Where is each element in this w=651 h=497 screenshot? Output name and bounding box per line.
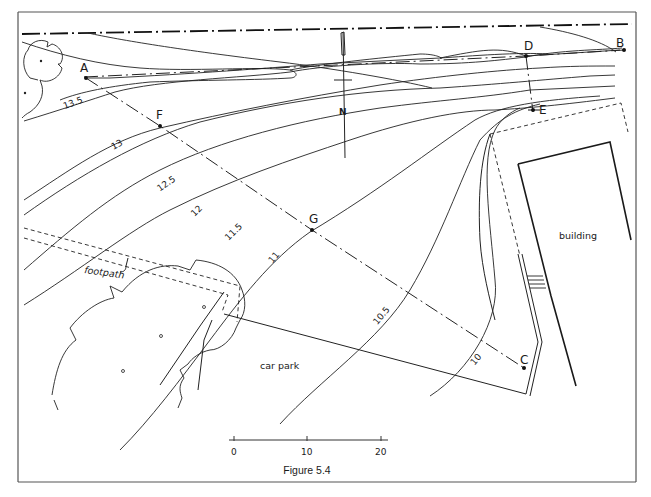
tree-canopy-top-left <box>22 40 62 118</box>
point-label-b: B <box>616 36 624 50</box>
point-label-f: F <box>156 108 163 122</box>
contour-label: 10 <box>468 352 483 367</box>
car-park-edge <box>224 314 526 394</box>
point-labels: A B C D E F G <box>80 36 624 367</box>
point-label-a: A <box>80 61 89 75</box>
steps <box>518 254 546 396</box>
site-plan-figure: 13.5 13 12.5 12 11.5 11 10.5 10 N A <box>0 0 651 497</box>
contour-label: 10.5 <box>371 305 392 327</box>
footpath-label: footpath <box>84 264 125 281</box>
car-park-label: car park <box>260 360 300 371</box>
tree-canopy-car-park <box>52 260 245 410</box>
point-label-g: G <box>309 212 318 226</box>
scale-tick-label: 0 <box>231 447 237 457</box>
contour-labels: 13.5 13 12.5 12 11.5 11 10.5 10 <box>62 95 484 367</box>
point-label-e: E <box>539 103 547 117</box>
survey-points <box>84 48 626 370</box>
building: building <box>518 142 631 386</box>
building-label: building <box>559 230 597 241</box>
scale-bar: 0 10 20 <box>229 436 388 457</box>
building-boundary-dashed <box>479 103 628 320</box>
north-label: N <box>339 107 347 117</box>
point-label-c: C <box>520 353 528 367</box>
contour-label: 12.5 <box>155 174 177 194</box>
contour-label: 11.5 <box>223 221 244 242</box>
contour-label: 13.5 <box>62 95 84 111</box>
point-label-d: D <box>524 39 533 53</box>
contour-label: 11 <box>266 250 281 265</box>
scale-tick-label: 10 <box>301 447 313 457</box>
contour-label: 12 <box>189 203 204 218</box>
contour-label: 13 <box>109 137 124 151</box>
property-boundary <box>22 24 632 34</box>
scale-tick-label: 20 <box>375 447 387 457</box>
figure-caption: Figure 5.4 <box>283 464 330 476</box>
